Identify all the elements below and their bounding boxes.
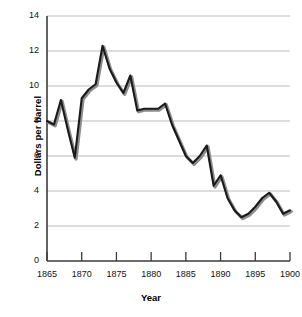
x-axis-tick-label: 1865 [30,269,64,279]
x-axis-tick-label: 1885 [169,269,203,279]
x-axis-tick-label: 1900 [273,269,302,279]
x-axis-tick-label: 1875 [99,269,133,279]
y-axis-tick-label: 4 [13,185,39,195]
x-axis-tick-label: 1870 [65,269,99,279]
series-line [47,46,290,218]
y-axis-tick-label: 0 [13,255,39,265]
x-axis-tick-label: 1890 [204,269,238,279]
x-axis-tick-label: 1895 [238,269,272,279]
x-axis-ticks-group [47,252,290,261]
y-axis-tick-label: 2 [13,220,39,230]
y-axis-tick-label: 14 [13,10,39,20]
x-axis-tick-label: 1880 [134,269,168,279]
y-axis-tick-label: 10 [13,80,39,90]
line-chart: Dollars per barrel 14121086420 186518701… [0,0,302,317]
series-line-shadow [48,47,291,219]
x-axis-title: Year [0,292,302,303]
gridlines-group [47,16,290,226]
y-axis-tick-label: 6 [13,150,39,160]
axis-lines-group [47,16,290,261]
y-axis-tick-label: 8 [13,115,39,125]
y-axis-tick-label: 12 [13,45,39,55]
